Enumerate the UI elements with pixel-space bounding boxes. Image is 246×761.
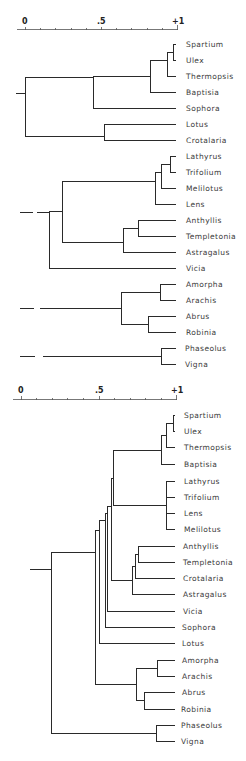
bottom-leaf-spartium: Spartium [184,411,222,420]
top-leaf-melilotus: Melilotus [186,184,223,193]
top-leaf-astragalus: Astragalus [186,248,230,257]
top-leaf-abrus: Abrus [186,312,210,321]
top-leaf-spartium: Spartium [186,40,224,49]
bottom-leaf-thermopsis: Thermopsis [183,443,231,452]
top-scale-label-0: 0 [22,17,28,26]
top-tree-branches [16,44,176,364]
top-leaf-trifolium: Trifolium [185,168,222,177]
bottom-leaf-templetonia: Templetonia [182,558,233,567]
bottom-leaf-abrus: Abrus [182,688,206,697]
bottom-scale-label-half: .5 [95,386,104,395]
top-leaf-lathyrus: Lathyrus [186,152,222,161]
bottom-scale-axis: 0 .5 +1 [13,386,184,400]
bottom-leaf-astragalus: Astragalus [183,590,227,599]
top-leaf-robinia: Robinia [186,328,217,337]
top-leaf-sophora: Sophora [186,104,220,113]
top-scale-label-half: .5 [97,17,106,26]
bottom-leaf-vigna: Vigna [181,737,204,746]
top-scale-label-1: +1 [172,17,185,26]
top-leaf-labels: Spartium Ulex Thermopsis Baptisia Sophor… [185,40,236,369]
bottom-leaf-lens: Lens [184,509,203,518]
top-leaf-vigna: Vigna [185,360,208,369]
bottom-leaf-labels: Spartium Ulex Thermopsis Baptisia Lathyr… [181,411,233,746]
top-leaf-lotus: Lotus [186,120,208,129]
bottom-leaf-vicia: Vicia [183,607,203,616]
bottom-leaf-melilotus: Melilotus [184,525,221,534]
top-leaf-anthyllis: Anthyllis [186,216,222,225]
top-leaf-lens: Lens [186,200,205,209]
bottom-leaf-crotalaria: Crotalaria [183,574,224,583]
bottom-leaf-arachis: Arachis [182,672,212,681]
bottom-leaf-trifolium: Trifolium [183,493,220,502]
bottom-leaf-anthyllis: Anthyllis [183,542,219,551]
bottom-scale-label-1: +1 [171,386,184,395]
top-leaf-crotalaria: Crotalaria [186,136,227,145]
bottom-tree-branches [30,415,175,741]
bottom-leaf-lathyrus: Lathyrus [184,477,220,486]
dendrogram-figure: 0 .5 +1 [0,0,246,761]
bottom-leaf-lotus: Lotus [182,639,204,648]
top-leaf-arachis: Arachis [186,296,216,305]
top-scale-axis: 0 .5 +1 [17,17,185,30]
bottom-leaf-phaseolus: Phaseolus [181,721,222,730]
top-leaf-vicia: Vicia [186,264,206,273]
bottom-leaf-amorpha: Amorpha [182,656,219,665]
bottom-leaf-robinia: Robinia [181,705,212,714]
top-leaf-amorpha: Amorpha [186,280,223,289]
top-leaf-phaseolus: Phaseolus [185,344,226,353]
top-leaf-baptisia: Baptisia [186,88,219,97]
bottom-leaf-ulex: Ulex [184,427,202,436]
bottom-leaf-sophora: Sophora [182,623,216,632]
top-leaf-thermopsis: Thermopsis [185,72,233,81]
top-leaf-templetonia: Templetonia [185,232,236,241]
bottom-scale-label-0: 0 [18,386,24,395]
top-leaf-ulex: Ulex [186,56,204,65]
bottom-leaf-baptisia: Baptisia [184,460,217,469]
